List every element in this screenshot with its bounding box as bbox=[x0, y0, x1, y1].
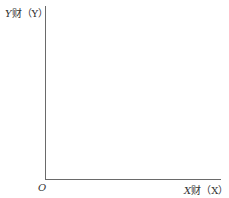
y-axis-paren: （Y） bbox=[22, 8, 49, 19]
x-axis-paren: （X） bbox=[201, 185, 228, 196]
y-axis-name: 财 bbox=[12, 8, 22, 19]
x-axis-label: X财（X） bbox=[184, 182, 228, 197]
x-axis-line bbox=[45, 179, 221, 180]
x-axis-name: 财 bbox=[191, 185, 201, 196]
origin-label: O bbox=[38, 182, 46, 193]
y-axis-label: Y财（Y） bbox=[5, 5, 48, 20]
y-axis-variable: Y bbox=[5, 8, 12, 19]
y-axis-line bbox=[45, 6, 46, 180]
